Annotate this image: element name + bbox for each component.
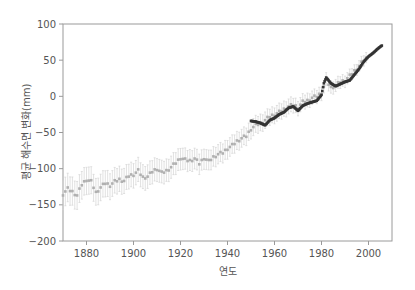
y-tick-label: −150 xyxy=(29,199,56,210)
x-axis-ticks: 1880190019201940196019802000 xyxy=(74,241,381,259)
plot-frame xyxy=(63,24,392,241)
y-tick-label: 50 xyxy=(43,55,56,66)
y-axis-title: 평균 해수면 변화(mm) xyxy=(20,84,32,181)
y-tick-label: 0 xyxy=(50,91,56,102)
x-tick-label: 1940 xyxy=(215,248,240,259)
x-tick-label: 1960 xyxy=(262,248,287,259)
x-tick-label: 1980 xyxy=(309,248,334,259)
y-axis-ticks: 100500−50−100−150−200 xyxy=(29,19,63,247)
x-tick-label: 1920 xyxy=(168,248,193,259)
y-tick-label: −50 xyxy=(35,127,56,138)
sea-level-chart: 100500−50−100−150−200 188019001920194019… xyxy=(0,0,415,290)
y-tick-label: −200 xyxy=(29,236,56,247)
x-tick-label: 2000 xyxy=(356,248,381,259)
x-tick-label: 1880 xyxy=(74,248,99,259)
reconstruction-series xyxy=(62,53,368,210)
y-tick-label: −100 xyxy=(29,163,56,174)
y-tick-label: 100 xyxy=(37,19,56,30)
x-tick-label: 1900 xyxy=(121,248,146,259)
x-axis-title: 연도 xyxy=(219,266,237,277)
